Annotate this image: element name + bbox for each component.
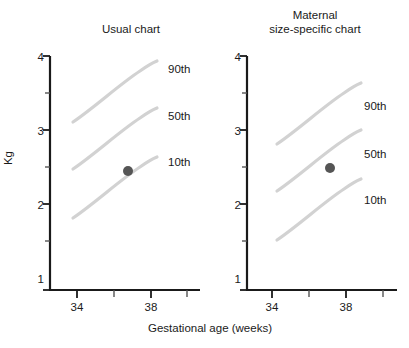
curve-left-10th	[73, 157, 157, 218]
data-point-left	[123, 166, 133, 176]
left-panel-curves	[73, 61, 157, 218]
right-panel-curves	[277, 83, 361, 240]
curve-right-50th	[277, 130, 361, 191]
curve-right-10th	[277, 179, 361, 240]
figure-container: Usual chart Maternal size-specific chart…	[0, 0, 409, 348]
curve-left-90th	[73, 61, 157, 122]
curve-right-90th	[277, 83, 361, 144]
right-panel-axes	[240, 56, 397, 298]
plot-canvas	[0, 0, 409, 348]
left-panel-axes	[43, 56, 200, 298]
curve-left-50th	[73, 108, 157, 169]
data-point-right	[325, 163, 335, 173]
